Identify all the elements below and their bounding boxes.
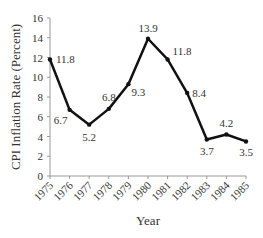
data-point [146, 37, 150, 41]
data-point [244, 139, 248, 143]
data-point [224, 132, 228, 136]
data-point [126, 82, 130, 86]
data-label: 13.9 [138, 22, 158, 34]
data-point [205, 137, 209, 141]
y-axis: 0246810121416 [32, 12, 50, 182]
data-point [185, 91, 189, 95]
y-tick-label: 0 [38, 170, 44, 182]
data-labels: 11.86.75.26.89.313.911.88.43.74.23.5 [54, 22, 254, 159]
y-tick-label: 16 [32, 12, 44, 24]
data-label: 4.2 [220, 117, 234, 129]
data-label: 3.5 [239, 146, 253, 158]
data-label: 5.2 [82, 131, 96, 143]
y-tick-label: 14 [32, 32, 44, 44]
data-point [67, 108, 71, 112]
y-tick-label: 6 [38, 111, 44, 123]
x-tick-label: 1983 [188, 179, 212, 203]
x-tick-label: 1978 [90, 179, 114, 203]
x-tick-label: 1977 [71, 179, 95, 203]
x-tick-label: 1975 [31, 179, 55, 203]
data-label: 9.3 [131, 86, 145, 98]
x-axis-title: Year [136, 213, 161, 228]
data-series [48, 37, 248, 144]
x-tick-label: 1976 [51, 179, 75, 203]
y-tick-label: 12 [32, 52, 43, 64]
data-label: 8.4 [192, 87, 206, 99]
data-label: 3.7 [200, 145, 214, 157]
data-point [107, 107, 111, 111]
x-tick-label: 1980 [129, 179, 153, 203]
data-point [87, 122, 91, 126]
x-tick-label: 1981 [149, 179, 173, 203]
x-tick-label: 1984 [208, 179, 232, 203]
y-axis-title: CPI Inflation Rate (Percent) [8, 24, 23, 170]
y-tick-label: 4 [38, 131, 44, 143]
x-tick-label: 1979 [110, 179, 134, 203]
data-label: 11.8 [173, 45, 192, 57]
x-tick-label: 1985 [227, 179, 251, 203]
data-label: 6.7 [54, 114, 68, 126]
data-point [48, 57, 52, 61]
x-axis: 1975197619771978197919801981198219831984… [31, 176, 251, 203]
series-line [50, 39, 246, 142]
line-chart: 0246810121416 19751976197719781979198019… [0, 0, 263, 238]
y-tick-label: 10 [32, 71, 44, 83]
data-label: 6.8 [102, 91, 116, 103]
x-tick-label: 1982 [169, 179, 193, 203]
data-point [165, 57, 169, 61]
y-tick-label: 8 [38, 91, 44, 103]
y-tick-label: 2 [38, 150, 44, 162]
data-label: 11.8 [56, 53, 75, 65]
